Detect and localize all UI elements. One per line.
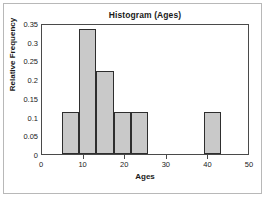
x-tick-label: 30: [162, 160, 170, 169]
histogram-bar: [204, 112, 221, 154]
y-tick-label: 0: [34, 151, 38, 160]
histogram-bar: [96, 71, 113, 154]
y-tick-label: 0.05: [23, 132, 38, 141]
x-tick-label: 50: [245, 160, 253, 169]
x-axis-tick-labels: 01020304050: [41, 160, 249, 172]
x-axis-label: Ages: [41, 172, 249, 181]
x-tick-mark: [207, 155, 208, 159]
histogram-bar: [131, 112, 148, 154]
y-tick-label: 0.1: [28, 113, 38, 122]
x-tick-mark: [166, 155, 167, 159]
y-tick-label: 0.3: [28, 38, 38, 47]
y-axis-tick-labels: 00.050.10.150.20.250.30.35: [8, 24, 38, 155]
chart-title: Histogram (Ages): [40, 10, 250, 20]
x-tick-mark: [83, 155, 84, 159]
x-tick-label: 40: [203, 160, 211, 169]
histogram-bar: [79, 29, 96, 154]
histogram-figure: Histogram (Ages) Relative Frequency 00.0…: [0, 0, 265, 197]
bars-container: [42, 25, 248, 154]
y-tick-label: 0.2: [28, 76, 38, 85]
histogram-bar: [114, 112, 131, 154]
y-tick-label: 0.25: [23, 57, 38, 66]
x-tick-label: 0: [39, 160, 43, 169]
plot-area: [41, 24, 249, 155]
x-tick-label: 10: [78, 160, 86, 169]
y-tick-label: 0.15: [23, 94, 38, 103]
histogram-bar: [62, 112, 79, 154]
x-tick-label: 20: [120, 160, 128, 169]
x-tick-mark: [124, 155, 125, 159]
y-tick-label: 0.35: [23, 20, 38, 29]
